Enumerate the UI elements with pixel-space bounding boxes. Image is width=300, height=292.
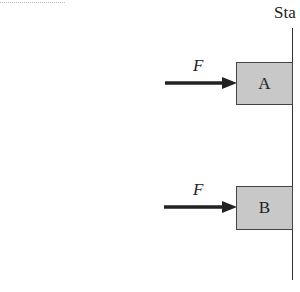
block-a-label: A [258, 74, 270, 94]
diagram: Sta F A F B [0, 0, 300, 292]
block-b: B [236, 186, 293, 230]
block-a: A [236, 62, 293, 105]
block-b-label: B [259, 198, 270, 218]
force-label-b: F [193, 180, 203, 200]
force-arrows [0, 0, 300, 292]
force-label-a: F [193, 56, 203, 76]
